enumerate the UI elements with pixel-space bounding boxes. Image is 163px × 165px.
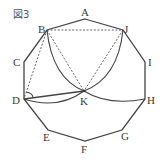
figure-title: 図3	[13, 9, 29, 20]
label-G: G	[121, 130, 129, 142]
label-D: D	[12, 94, 20, 106]
arc-KH	[84, 91, 145, 101]
label-C: C	[13, 56, 20, 68]
label-I: I	[148, 56, 152, 68]
arc-BK	[47, 30, 84, 91]
decagon	[24, 19, 145, 141]
label-A: A	[81, 6, 89, 18]
segment-BD	[24, 30, 47, 99]
label-E: E	[43, 131, 50, 143]
decagon-diagram: 図3 A B J C I D H K E G F	[0, 0, 163, 165]
label-H: H	[147, 94, 155, 106]
label-K: K	[80, 95, 88, 107]
label-B: B	[38, 23, 45, 35]
point-K	[83, 90, 85, 92]
label-F: F	[81, 143, 87, 155]
label-J: J	[124, 23, 129, 35]
angle-mark-D	[26, 92, 33, 98]
segment-BK	[47, 30, 84, 91]
segment-JK	[84, 30, 123, 91]
